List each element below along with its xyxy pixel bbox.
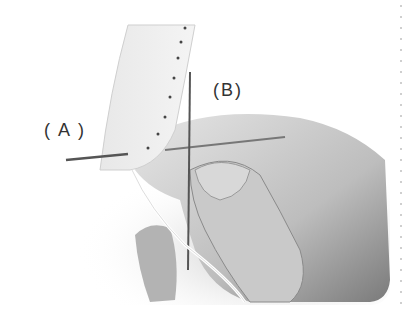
stitching-photo	[0, 0, 406, 323]
dotted-border	[400, 5, 402, 305]
label-a: ( A )	[44, 120, 86, 141]
photo-illustration	[0, 0, 406, 323]
label-b: (B)	[213, 80, 243, 101]
